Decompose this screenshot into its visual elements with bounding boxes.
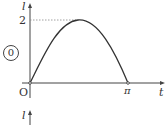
y-axis-arrow-icon — [28, 3, 32, 8]
choice-marker: 0 — [3, 45, 19, 61]
next-figure-y-axis-arrow-icon — [28, 110, 32, 115]
x-axis-label: t — [159, 87, 163, 98]
origin-label: O — [19, 87, 28, 98]
x-axis-arrow-icon — [160, 81, 165, 85]
y-axis-label: l — [22, 1, 26, 12]
curve-l-of-t — [30, 20, 128, 83]
pi-point — [127, 82, 130, 85]
x-tick-label-pi: π — [124, 86, 131, 96]
origin-point — [29, 82, 32, 85]
y-tick-label-2: 2 — [19, 15, 26, 26]
next-figure-y-axis-label: l — [22, 110, 26, 121]
